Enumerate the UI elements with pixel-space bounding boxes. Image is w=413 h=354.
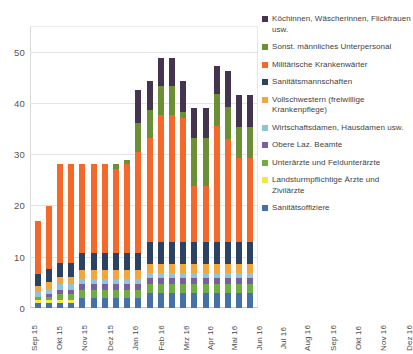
legend-item[interactable]: Köchinnen, Wäscherinnen, Flickfrauen usw… bbox=[262, 14, 412, 35]
chart-legend: Köchinnen, Wäscherinnen, Flickfrauen usw… bbox=[262, 14, 412, 221]
bar-segment bbox=[158, 264, 164, 273]
legend-item-label: Sanitätsoffiziere bbox=[272, 203, 330, 214]
stacked-bar-chart: 01020304050 Sep 15Okt 15Nov 15Dez 15Jan … bbox=[0, 0, 413, 354]
stacked-bar[interactable] bbox=[180, 81, 186, 308]
bar-segment bbox=[203, 284, 209, 292]
legend-item-label: Vollschwestern (freiwillige Krankenpfleg… bbox=[272, 95, 412, 116]
stacked-bar[interactable] bbox=[91, 164, 97, 308]
bar-column[interactable] bbox=[43, 26, 54, 308]
bar-segment bbox=[135, 290, 141, 298]
bar-segment bbox=[68, 164, 74, 263]
legend-item-label: Militärische Krankenwärter bbox=[272, 60, 368, 71]
stacked-bar[interactable] bbox=[57, 164, 63, 308]
stacked-bar[interactable] bbox=[113, 164, 119, 308]
bar-segment bbox=[135, 123, 141, 152]
bar-column[interactable] bbox=[211, 26, 222, 308]
legend-swatch-icon bbox=[262, 16, 268, 22]
bar-segment bbox=[147, 293, 153, 308]
bar-segment bbox=[203, 186, 209, 242]
bar-segment bbox=[57, 164, 63, 263]
bar-segment bbox=[191, 138, 197, 185]
legend-item[interactable]: Landsturmpflichtige Ärzte und Zivilärzte bbox=[262, 175, 412, 196]
bar-column[interactable] bbox=[32, 26, 43, 308]
bar-column[interactable] bbox=[54, 26, 65, 308]
stacked-bar[interactable] bbox=[191, 108, 197, 308]
bar-column[interactable] bbox=[189, 26, 200, 308]
stacked-bar[interactable] bbox=[169, 58, 175, 308]
y-axis-tick-label: 20 bbox=[14, 200, 25, 211]
bar-column[interactable] bbox=[166, 26, 177, 308]
bar-column[interactable] bbox=[133, 26, 144, 308]
bar-segment bbox=[35, 274, 41, 287]
bar-segment bbox=[68, 303, 74, 308]
bar-column[interactable] bbox=[99, 26, 110, 308]
stacked-bar[interactable] bbox=[135, 90, 141, 308]
legend-item[interactable]: Vollschwestern (freiwillige Krankenpfleg… bbox=[262, 95, 412, 116]
x-axis-label: Nov 16 bbox=[381, 309, 407, 353]
bar-segment bbox=[236, 264, 242, 273]
bar-segment bbox=[247, 284, 253, 292]
bar-column[interactable] bbox=[200, 26, 211, 308]
stacked-bar[interactable] bbox=[158, 58, 164, 308]
stacked-bar[interactable] bbox=[102, 164, 108, 308]
stacked-bar[interactable] bbox=[247, 95, 253, 308]
bar-segment bbox=[225, 242, 231, 264]
x-axis-label: Nov 15 bbox=[82, 309, 108, 353]
x-axis-label-text: Dez 16 bbox=[405, 325, 413, 351]
bar-column[interactable] bbox=[155, 26, 166, 308]
stacked-bar[interactable] bbox=[46, 206, 52, 309]
bar-column[interactable] bbox=[222, 26, 233, 308]
bar-column[interactable] bbox=[77, 26, 88, 308]
stacked-bar[interactable] bbox=[147, 81, 153, 308]
bar-segment bbox=[91, 298, 97, 308]
legend-item[interactable]: Obere Laz. Beamte bbox=[262, 140, 412, 151]
stacked-bar[interactable] bbox=[225, 71, 231, 308]
legend-item-label: Obere Laz. Beamte bbox=[272, 140, 342, 151]
bar-segment bbox=[214, 94, 220, 126]
legend-item[interactable]: Sanitätsmannschaften bbox=[262, 77, 412, 88]
y-axis-tick-label: 10 bbox=[14, 251, 25, 262]
bar-segment bbox=[113, 169, 119, 254]
stacked-bar[interactable] bbox=[124, 160, 130, 308]
bar-segment bbox=[236, 293, 242, 308]
bar-column[interactable] bbox=[234, 26, 245, 308]
bar-segment bbox=[113, 298, 119, 308]
bar-segment bbox=[147, 284, 153, 292]
y-axis-tick-label: 30 bbox=[14, 149, 25, 160]
bar-segment bbox=[135, 253, 141, 269]
plot-area: 01020304050 bbox=[30, 26, 258, 308]
stacked-bar[interactable] bbox=[68, 164, 74, 308]
stacked-bar[interactable] bbox=[35, 221, 41, 308]
bar-segment bbox=[180, 81, 186, 112]
bar-segment bbox=[180, 118, 186, 242]
bar-segment bbox=[102, 270, 108, 279]
legend-item[interactable]: Unterärzte und Feldunterärzte bbox=[262, 158, 412, 169]
bar-column[interactable] bbox=[66, 26, 77, 308]
bar-segment bbox=[225, 264, 231, 273]
bar-segment bbox=[247, 264, 253, 273]
x-axis-label: Jul 16 bbox=[283, 309, 305, 353]
legend-item[interactable]: Militärische Krankenwärter bbox=[262, 60, 412, 71]
bar-column[interactable] bbox=[245, 26, 256, 308]
stacked-bar[interactable] bbox=[236, 95, 242, 308]
bar-segment bbox=[158, 58, 164, 86]
legend-item[interactable]: Sonst. männliches Unterpersonal bbox=[262, 42, 412, 53]
bar-column[interactable] bbox=[122, 26, 133, 308]
legend-item[interactable]: Sanitätsoffiziere bbox=[262, 203, 412, 214]
stacked-bar[interactable] bbox=[214, 66, 220, 308]
legend-item[interactable]: Wirtschaftsdamen, Hausdamen usw. bbox=[262, 123, 412, 134]
bar-segment bbox=[57, 263, 63, 276]
bar-column[interactable] bbox=[178, 26, 189, 308]
bar-column[interactable] bbox=[88, 26, 99, 308]
bar-column[interactable] bbox=[110, 26, 121, 308]
bar-segment bbox=[35, 303, 41, 308]
x-axis-label: Okt 16 bbox=[357, 309, 381, 353]
bar-column[interactable] bbox=[144, 26, 155, 308]
bar-segment bbox=[68, 263, 74, 276]
bar-segment bbox=[169, 242, 175, 264]
bar-segment bbox=[147, 110, 153, 139]
stacked-bar[interactable] bbox=[203, 108, 209, 308]
bar-segment bbox=[191, 186, 197, 242]
stacked-bar[interactable] bbox=[79, 164, 85, 308]
bar-segment bbox=[203, 138, 209, 185]
